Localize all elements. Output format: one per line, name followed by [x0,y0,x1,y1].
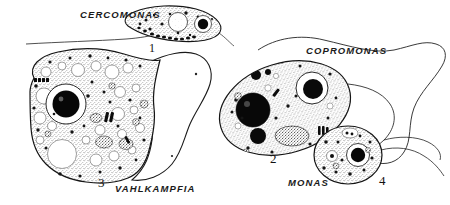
label-copromonas: COPROMONAS [306,45,387,56]
figure-number-1: 1 [149,41,155,55]
label-monas: MONAS [288,177,329,188]
copromonas-granular-mass [275,126,309,146]
monas-apical-vacuole [342,128,358,138]
vahlkampfia-nucleus [53,91,80,118]
figure-plate: CERCOMONAS COPROMONAS VAHLKAMPFIA MONAS … [0,0,450,205]
figure-number-3: 3 [98,175,105,190]
figure-number-4: 4 [379,173,386,188]
label-vahlkampfia: VAHLKAMPFIA [115,183,196,194]
copromonas-vacuole-body [303,79,323,99]
copromonas-secondary-body [250,128,266,144]
label-cercomonas: CERCOMONAS [80,9,161,20]
copromonas-main-nucleus [236,93,270,127]
cercomonas-nucleus [198,19,208,29]
figure-number-2: 2 [270,151,277,166]
monas-nucleus [351,148,365,162]
